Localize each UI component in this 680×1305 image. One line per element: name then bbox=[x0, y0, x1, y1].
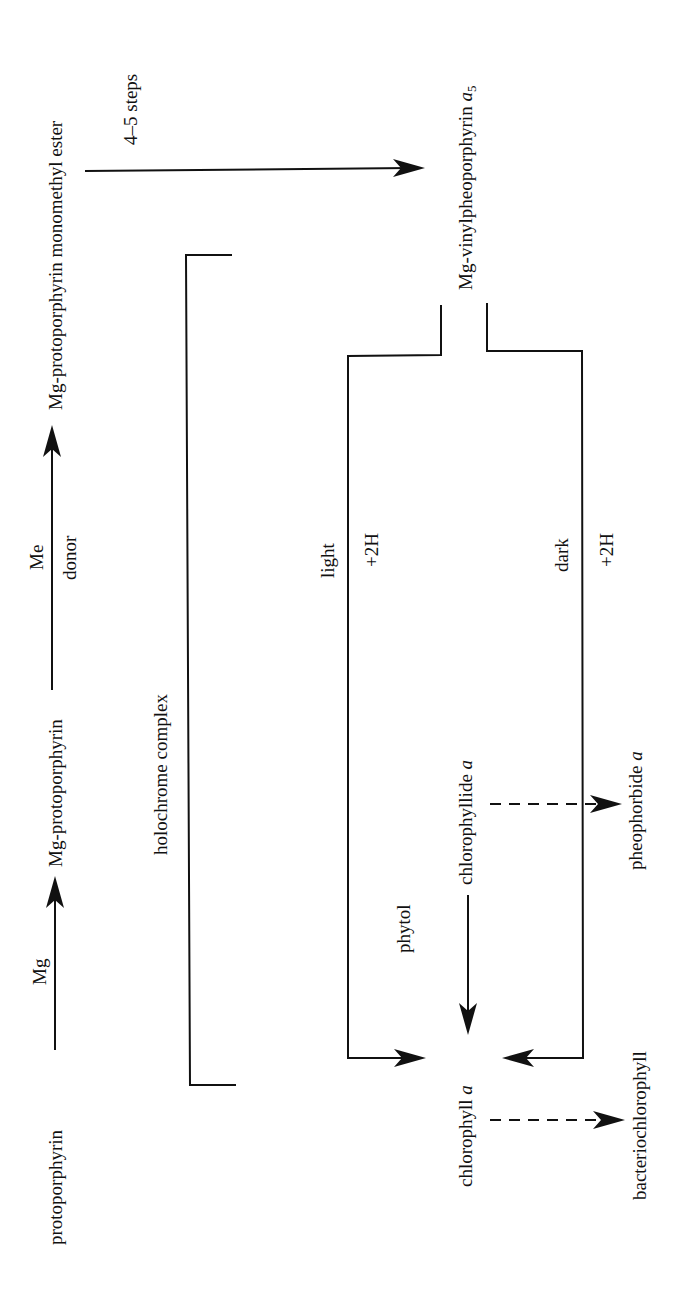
arrow-4-5-steps bbox=[85, 159, 425, 177]
node-chlorophyllide-text: chlorophyllide bbox=[455, 769, 476, 885]
arrow-to-pheophorbide bbox=[490, 795, 622, 813]
arrow-phytol bbox=[459, 895, 477, 1035]
node-mg-vinylpheoporphyrin-text: Mg-vinylpheoporphyrin bbox=[455, 102, 476, 290]
node-pheophorbide-a: pheophorbide a bbox=[625, 751, 646, 870]
label-holochrome-complex: holochrome complex bbox=[150, 694, 171, 855]
label-dark-plus-2h: +2H bbox=[596, 533, 617, 567]
node-mg-proto-monomethyl-ester: Mg-protoporphyrin monomethyl ester bbox=[45, 120, 66, 410]
node-mg-vinylpheoporphyrin-italic: a bbox=[455, 92, 476, 102]
node-mg-vinylpheoporphyrin-subscript: 5 bbox=[464, 86, 479, 93]
label-phytol: phytol bbox=[393, 904, 414, 953]
label-light: light bbox=[317, 542, 338, 578]
holochrome-bracket bbox=[186, 255, 236, 1085]
label-mg: Mg bbox=[29, 958, 50, 985]
node-chlorophyll-a: chlorophyll a bbox=[455, 1085, 476, 1187]
node-pheophorbide-italic: a bbox=[625, 751, 646, 761]
node-chlorophyll-italic: a bbox=[455, 1085, 476, 1095]
node-mg-vinylpheoporphyrin: Mg-vinylpheoporphyrin a5 bbox=[455, 86, 479, 290]
node-chlorophyll-text: chlorophyll bbox=[455, 1095, 476, 1187]
chlorophyll-biosynthesis-diagram: protoporphyrin Mg Mg-protoporphyrin Me d… bbox=[0, 0, 680, 1305]
arrow-to-bacteriochlorophyll bbox=[490, 1111, 625, 1129]
node-mg-protoporphyrin: Mg-protoporphyrin bbox=[45, 719, 66, 867]
node-protoporphyrin: protoporphyrin bbox=[45, 1129, 66, 1245]
label-me: Me bbox=[26, 545, 47, 570]
branch-dark bbox=[487, 303, 583, 1067]
node-bacteriochlorophyll: bacteriochlorophyll bbox=[629, 1051, 650, 1200]
label-4-5-steps: 4–5 steps bbox=[120, 74, 141, 145]
node-chlorophyllide-a: chlorophyllide a bbox=[455, 760, 476, 885]
node-chlorophyllide-italic: a bbox=[455, 760, 476, 770]
label-light-plus-2h: +2H bbox=[361, 533, 382, 567]
label-donor: donor bbox=[59, 535, 80, 580]
label-dark: dark bbox=[551, 538, 572, 572]
node-pheophorbide-text: pheophorbide bbox=[625, 761, 646, 870]
